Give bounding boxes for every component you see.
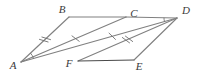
segment-AC bbox=[21, 17, 126, 62]
vertex-labels-layer: ABCDEF bbox=[9, 3, 190, 72]
vertex-label-A: A bbox=[9, 59, 17, 71]
tick-AC-single-stroke bbox=[72, 36, 79, 41]
segment-FE bbox=[78, 60, 134, 61]
vertex-label-E: E bbox=[135, 60, 143, 72]
geometry-figure: ABCDEF bbox=[0, 0, 198, 76]
vertex-label-F: F bbox=[65, 57, 73, 69]
geometry-canvas: ABCDEF bbox=[0, 0, 198, 76]
tick-AD-single-stroke bbox=[109, 33, 115, 39]
vertex-label-B: B bbox=[59, 3, 66, 15]
tick-AB-double-stroke bbox=[39, 39, 48, 42]
vertex-label-D: D bbox=[181, 4, 190, 16]
tick-AB-double-stroke bbox=[42, 37, 51, 40]
vertex-label-C: C bbox=[130, 7, 138, 19]
tick-AD-single bbox=[109, 33, 115, 39]
segment-FD bbox=[78, 18, 177, 61]
tick-AC-single bbox=[72, 36, 79, 41]
segments-layer bbox=[21, 17, 177, 62]
